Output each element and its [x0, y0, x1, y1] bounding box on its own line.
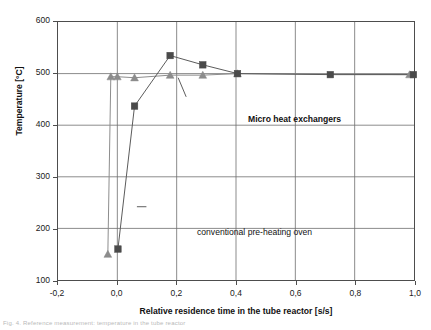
- y-tick-label: 400: [16, 120, 50, 129]
- x-tick-mark: [355, 281, 356, 285]
- x-tick-mark: [236, 281, 237, 285]
- x-tick-label: 0,0: [97, 289, 137, 298]
- y-tick-label: 600: [16, 16, 50, 25]
- x-tick-mark: [296, 281, 297, 285]
- plot-area: Micro heat exchangers conventional pre-h…: [57, 21, 415, 281]
- y-tick-label: 100: [16, 276, 50, 285]
- x-tick-mark: [117, 281, 118, 285]
- x-tick-label: 0,8: [335, 289, 375, 298]
- x-tick-label: 0,6: [276, 289, 316, 298]
- y-axis-title: Temperature [°C]: [14, 41, 24, 161]
- x-tick-mark: [176, 281, 177, 285]
- y-tick-label: 200: [16, 224, 50, 233]
- figure-caption: Fig. 4. Reference measurement: temperatu…: [3, 320, 186, 326]
- data-series-layer: [58, 22, 414, 280]
- x-tick-mark: [415, 281, 416, 285]
- annotation-conventional-pre-heating-oven: conventional pre-heating oven: [197, 227, 312, 237]
- y-tick-label: 500: [16, 68, 50, 77]
- figure-chart-temperature-vs-residence-time: Temperature [°C] 100200300400500600 -0,2…: [0, 0, 431, 330]
- y-tick-label: 300: [16, 172, 50, 181]
- annotation-micro-heat-exchangers: Micro heat exchangers: [248, 114, 341, 124]
- x-tick-label: 1,0: [395, 289, 431, 298]
- x-axis-title: Relative residence time in the tube reac…: [57, 306, 415, 316]
- x-tick-label: 0,2: [156, 289, 196, 298]
- x-tick-mark: [57, 281, 58, 285]
- x-tick-label: 0,4: [216, 289, 256, 298]
- x-tick-label: -0,2: [37, 289, 77, 298]
